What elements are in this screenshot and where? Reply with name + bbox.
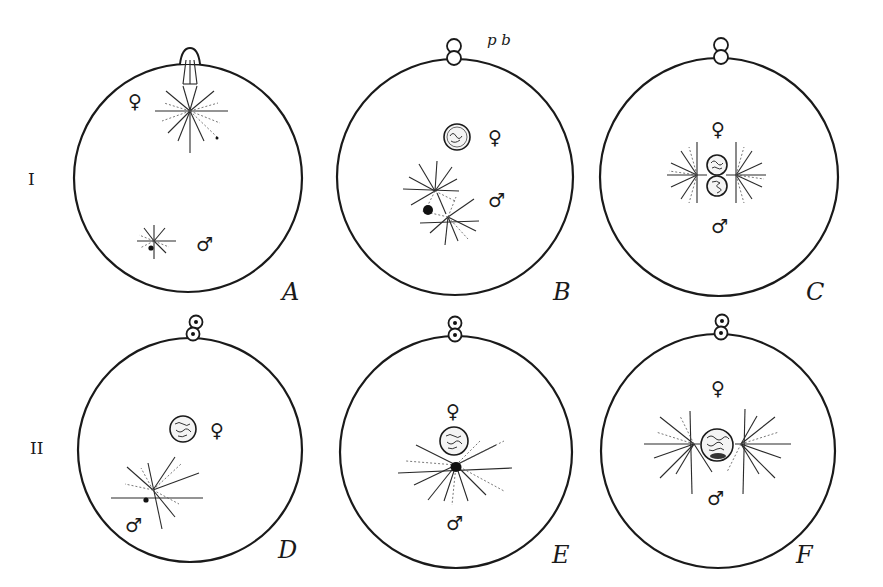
fertilization-stages-figure: I II ♀ xyxy=(0,0,883,587)
male-pronucleus xyxy=(707,176,727,196)
panel-label-b: B xyxy=(552,278,571,306)
panel-a: ♀ ♂ A xyxy=(74,48,302,306)
aster-left xyxy=(667,142,707,203)
polar-body-label: p b xyxy=(487,31,511,49)
aster-right xyxy=(727,409,791,494)
egg-cell-outline xyxy=(78,338,302,562)
female-pronucleus xyxy=(707,155,727,175)
central-spindle xyxy=(437,193,446,214)
panel-label-e: E xyxy=(551,541,570,569)
female-pronucleus-symbol: ♀ xyxy=(711,377,725,399)
male-pronucleus-symbol: ♂ xyxy=(711,215,728,237)
male-pronucleus-symbol: ♂ xyxy=(125,514,142,536)
panel-e: ♀ ♂ E xyxy=(340,317,572,570)
female-pronucleus-symbol: ♀ xyxy=(711,118,725,140)
female-pronucleus-symbol: ♀ xyxy=(446,400,460,422)
row-label-i: I xyxy=(28,169,35,189)
polar-bodies xyxy=(187,316,203,341)
polar-bodies xyxy=(715,315,729,340)
female-pronucleus xyxy=(444,124,470,150)
row-label-ii: II xyxy=(30,438,43,458)
male-pronucleus-symbol: ♂ xyxy=(488,189,505,211)
maturation-spindle xyxy=(183,60,197,110)
panel-b: p b ♀ xyxy=(337,31,573,306)
male-pronucleus-symbol: ♂ xyxy=(707,487,724,509)
fused-nucleus xyxy=(701,429,733,461)
sperm-aster-lower xyxy=(420,197,479,245)
polar-body xyxy=(447,51,461,65)
panel-label-d: D xyxy=(277,536,297,564)
female-pronucleus xyxy=(170,416,196,442)
aster-left xyxy=(644,411,712,494)
panel-label-f: F xyxy=(795,541,814,569)
panel-d: ♀ ♂ D xyxy=(78,316,302,565)
female-pronucleus xyxy=(440,427,468,455)
egg-cell-outline xyxy=(337,59,573,295)
sperm-nucleus xyxy=(143,497,148,502)
female-aster xyxy=(155,91,228,153)
sperm-aster-upper xyxy=(403,161,459,211)
female-pronucleus-symbol: ♀ xyxy=(210,419,224,441)
male-pronucleus-symbol: ♂ xyxy=(446,512,463,534)
panel-c: ♀ xyxy=(600,38,838,306)
aster-right xyxy=(726,142,766,203)
polar-body xyxy=(714,50,728,64)
sperm-nucleus xyxy=(423,205,433,215)
male-pronucleus-symbol: ♂ xyxy=(196,233,213,255)
panel-label-c: C xyxy=(806,278,824,306)
female-pronucleus-symbol: ♀ xyxy=(128,90,142,112)
panel-f: ♀ ♂ F xyxy=(601,315,835,570)
female-pronucleus-symbol: ♀ xyxy=(488,126,502,148)
panel-label-a: A xyxy=(280,278,299,306)
polar-bodies xyxy=(449,317,462,342)
male-pronucleus xyxy=(451,462,462,472)
egg-cell-outline xyxy=(74,64,302,292)
sperm-aster xyxy=(137,225,176,259)
